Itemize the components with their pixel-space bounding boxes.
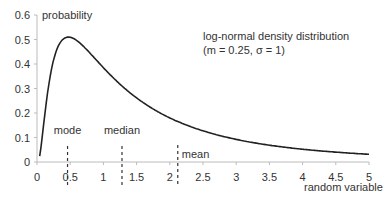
- x-tick-label: 0.5: [63, 171, 78, 183]
- x-tick-label: 0: [34, 171, 40, 183]
- median-label: median: [104, 124, 140, 136]
- y-tick-label: 0.4: [15, 58, 30, 70]
- y-tick-label: 0.2: [15, 107, 30, 119]
- y-tick-label: 0: [24, 156, 30, 168]
- mean-label: mean: [182, 148, 210, 160]
- x-tick-label: 1: [100, 171, 106, 183]
- y-axis: 00.10.20.30.40.50.6: [15, 9, 37, 168]
- mode-label: mode: [54, 124, 82, 136]
- lognormal-chart: 00.10.20.30.40.50.6 00.511.522.533.544.5…: [0, 0, 385, 208]
- x-tick-label: 3: [233, 171, 239, 183]
- chart-title: log-normal density distribution: [203, 30, 349, 42]
- y-tick-label: 0.1: [15, 132, 30, 144]
- y-tick-label: 0.5: [15, 34, 30, 46]
- y-tick-label: 0.3: [15, 83, 30, 95]
- y-tick-label: 0.6: [15, 9, 30, 21]
- y-axis-label: probability: [42, 9, 93, 21]
- x-tick-label: 3.5: [262, 171, 277, 183]
- chart-subtitle: (m = 0.25, σ = 1): [203, 44, 285, 56]
- x-tick-label: 2.5: [195, 171, 210, 183]
- x-axis-label: random variable: [304, 181, 383, 193]
- x-axis: 00.511.522.533.544.55: [34, 162, 372, 183]
- x-tick-label: 1.5: [129, 171, 144, 183]
- x-tick-label: 2: [167, 171, 173, 183]
